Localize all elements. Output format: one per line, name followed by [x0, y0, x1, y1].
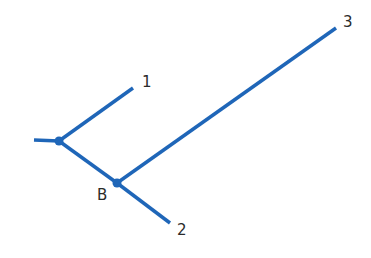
node-B-label: B — [97, 186, 107, 204]
branch-B-to-leaf-2 — [117, 183, 170, 223]
leaf-3-label: 3 — [343, 13, 353, 31]
leaf-1-label: 1 — [142, 73, 152, 91]
root-node-dot — [55, 137, 64, 146]
branch-to-leaf-1 — [59, 88, 133, 141]
leaf-2-label: 2 — [177, 221, 187, 239]
node-B-dot — [113, 179, 122, 188]
phylogenetic-tree-diagram: B 1 2 3 — [0, 0, 371, 258]
branch-root-to-B — [59, 141, 117, 183]
branch-B-to-leaf-3 — [117, 28, 336, 183]
